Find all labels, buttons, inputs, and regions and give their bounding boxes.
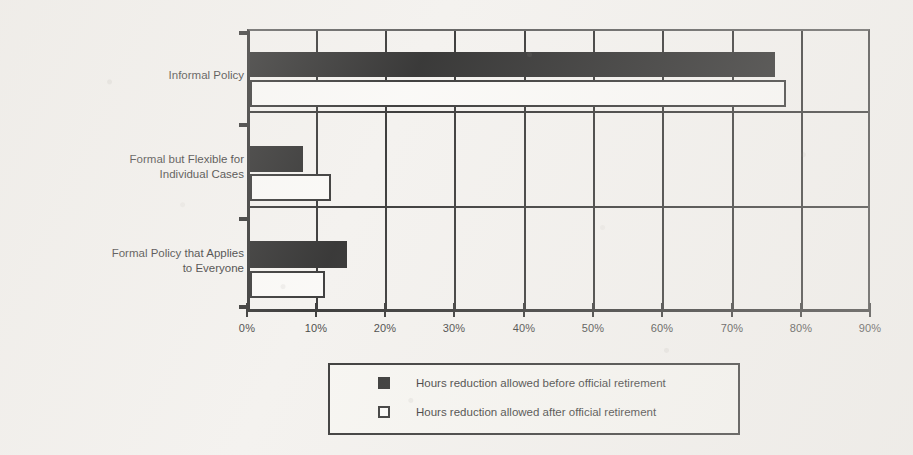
x-tick-30 [453,303,455,317]
legend-swatch-filled-icon [378,377,390,389]
group-separator-2 [250,206,868,208]
category-label-informal-policy: Informal Policy [169,68,244,83]
x-tick-50 [592,303,594,317]
x-tick-60 [661,303,663,317]
bar-formal-everyone-after [250,271,325,298]
bar-informal-policy-before [250,52,775,77]
x-tick-label-0: 0% [239,322,255,334]
x-tick-10 [315,303,317,317]
legend-label-before: Hours reduction allowed before official … [416,377,666,389]
x-tick-80 [800,303,802,317]
x-tick-label-50: 50% [582,322,605,334]
y-tick-3 [239,305,249,309]
x-tick-label-30: 30% [443,322,466,334]
bar-informal-policy-after [250,80,786,107]
x-tick-label-10: 10% [305,322,328,334]
bar-formal-flexible-before [250,146,303,172]
chart-legend: Hours reduction allowed before official … [328,363,740,435]
x-tick-label-60: 60% [651,322,674,334]
x-tick-70 [731,303,733,317]
bar-formal-everyone-before [250,241,347,268]
x-tick-label-90: 90% [859,322,882,334]
x-tick-label-20: 20% [374,322,397,334]
x-tick-40 [523,303,525,317]
y-tick-2 [239,217,249,221]
gridline-80 [801,31,803,309]
legend-label-after: Hours reduction allowed after official r… [416,406,656,418]
group-separator-1 [250,111,868,113]
legend-item-before: Hours reduction allowed before official … [378,377,666,389]
x-tick-90 [869,303,871,317]
plot-area [247,29,870,309]
category-label-formal-everyone: Formal Policy that Applies to Everyone [112,246,244,276]
legend-item-after: Hours reduction allowed after official r… [378,406,656,418]
y-tick-0 [239,31,249,35]
bar-formal-flexible-after [250,174,331,201]
x-tick-label-40: 40% [513,322,536,334]
x-tick-label-70: 70% [721,322,744,334]
y-tick-1 [239,123,249,127]
x-axis-line [247,309,870,312]
horizontal-bar-chart: 0% 10% 20% 30% 40% 50% 60% 70% 80% 90% I… [0,0,913,455]
x-tick-20 [384,303,386,317]
x-tick-label-80: 80% [790,322,813,334]
legend-swatch-hollow-icon [378,406,390,418]
category-label-formal-flexible: Formal but Flexible for Individual Cases [130,152,244,182]
